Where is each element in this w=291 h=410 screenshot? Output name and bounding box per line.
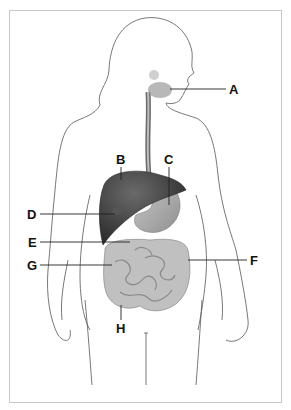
label-e: E — [28, 236, 37, 249]
large-intestine — [104, 239, 190, 310]
label-a: A — [229, 83, 238, 96]
label-b: B — [116, 153, 125, 166]
label-d: D — [27, 208, 36, 221]
mouth — [148, 82, 172, 98]
label-h: H — [116, 322, 125, 335]
digestive-system-illustration — [0, 0, 291, 410]
label-f: F — [250, 254, 258, 267]
label-c: C — [164, 153, 173, 166]
label-g: G — [27, 259, 37, 272]
